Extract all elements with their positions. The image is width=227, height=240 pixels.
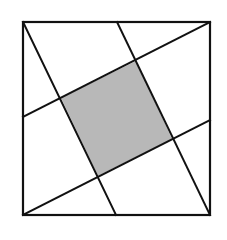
diagram-canvas — [0, 0, 227, 240]
shaded-inner-square — [61, 61, 172, 176]
